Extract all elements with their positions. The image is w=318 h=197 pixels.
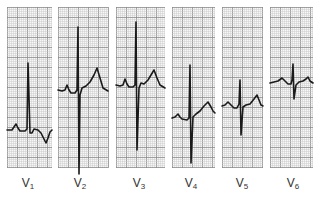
lead-panel-v2 xyxy=(58,7,109,174)
lead-panel-v3 xyxy=(116,7,165,168)
lead-label-v2: V2 xyxy=(65,176,95,191)
lead-letter: V xyxy=(133,176,141,190)
lead-number: 4 xyxy=(193,182,197,191)
lead-number: 6 xyxy=(295,182,299,191)
lead-number: 3 xyxy=(141,182,145,191)
lead-panel-v5 xyxy=(222,7,263,168)
ecg-figure: V1V2V3V4V5V6 xyxy=(0,0,318,197)
ecg-svg xyxy=(0,0,318,197)
lead-letter: V xyxy=(74,176,82,190)
lead-number: 2 xyxy=(82,182,86,191)
lead-letter: V xyxy=(185,176,193,190)
lead-panel-v4 xyxy=(172,7,215,168)
lead-label-v4: V4 xyxy=(176,176,206,191)
lead-label-v5: V5 xyxy=(227,176,257,191)
lead-letter: V xyxy=(22,176,30,190)
lead-panel-v1 xyxy=(7,7,52,168)
lead-letter: V xyxy=(236,176,244,190)
lead-letter: V xyxy=(287,176,295,190)
lead-panel-v6 xyxy=(270,7,313,168)
lead-label-v6: V6 xyxy=(278,176,308,191)
lead-label-v3: V3 xyxy=(124,176,154,191)
lead-label-v1: V1 xyxy=(13,176,43,191)
lead-number: 5 xyxy=(244,182,248,191)
lead-number: 1 xyxy=(30,182,34,191)
